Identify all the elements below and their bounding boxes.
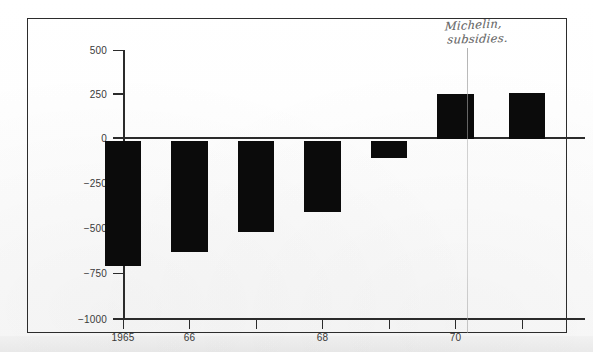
bar-71 [509,93,546,139]
y-axis-tick-label-minus500: −500 [84,222,107,233]
x-axis-tick-66 [189,319,190,329]
y-axis-tick-500: 500 [113,50,124,52]
x-axis-tick-67 [256,319,257,329]
x-axis-tick-69 [389,319,390,329]
y-axis-tick-label-minus750: −750 [84,268,107,279]
x-axis-tick-68 [322,319,323,329]
x-axis-tick-71 [522,319,523,329]
annotation-leader-line [467,48,468,333]
bar-68 [304,141,341,213]
y-axis-tick-label-minus250: −250 [84,178,107,189]
y-axis-tick-label-250: 250 [90,88,107,99]
x-axis-tick-70 [455,319,456,329]
scan-edge-shadow [0,336,593,352]
bar-1965 [105,141,142,266]
bar-69 [371,141,408,159]
figure-frame: 500 250 0 −250 −500 −750 −1000 1965 66 6… [27,18,567,333]
x-axis-line [123,318,585,320]
y-axis-tick-minus750: −750 [113,273,124,275]
annotation-michelin-subsidies: Michelin, subsidies. [444,14,565,49]
y-axis-tick-250: 250 [113,93,124,95]
y-axis-tick-label-500: 500 [90,45,107,56]
bar-70 [437,94,474,139]
x-axis-tick-1965 [123,319,124,329]
bar-67 [238,141,275,232]
y-axis-tick-label-minus1000: −1000 [78,313,107,324]
bar-66 [171,141,208,252]
